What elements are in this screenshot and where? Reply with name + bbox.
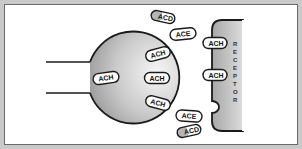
synapse-diagram: R E C E P T O R ACD ACE ACH ACH ACH ACH (0, 0, 302, 149)
svg-text:ACE: ACE (181, 112, 197, 120)
molecule-ach-bound: ACH (203, 38, 227, 49)
molecule-ach: ACH (145, 73, 170, 84)
svg-text:ACH: ACH (208, 72, 223, 79)
molecule-ace: ACE (169, 27, 196, 41)
molecule-acd: ACD (176, 124, 202, 139)
axon (46, 62, 90, 93)
molecule-ace: ACE (176, 110, 203, 123)
molecule-ach-bound: ACH (203, 70, 227, 81)
molecule-acd: ACD (150, 10, 176, 25)
svg-text:ACH: ACH (149, 75, 164, 82)
svg-text:ACH: ACH (208, 40, 223, 47)
